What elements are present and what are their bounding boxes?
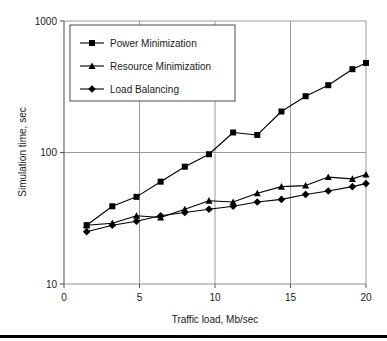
bottom-divider-rule — [0, 335, 387, 338]
data-point-marker — [182, 164, 188, 170]
data-point-marker — [158, 179, 164, 185]
data-point-marker — [278, 109, 284, 115]
y-tick-label: 1000 — [35, 16, 58, 27]
data-point-marker — [363, 60, 369, 66]
chart-figure: 101001000 05101520 Simulation time, sec … — [0, 0, 387, 341]
data-point-marker — [109, 203, 115, 209]
legend-label: Load Balancing — [110, 84, 179, 95]
data-point-marker — [254, 132, 260, 138]
x-tick-label: 10 — [209, 292, 221, 303]
data-point-marker — [133, 194, 139, 200]
x-tick-label: 5 — [137, 292, 143, 303]
data-point-marker — [206, 151, 212, 157]
data-point-marker — [349, 66, 355, 72]
y-tick-label: 10 — [46, 279, 58, 290]
data-point-marker — [230, 129, 236, 135]
data-point-marker — [325, 82, 331, 88]
y-tick-label: 100 — [40, 147, 57, 158]
legend-marker-square — [89, 40, 95, 46]
y-axis-label: Simulation time, sec — [17, 107, 28, 196]
x-tick-label: 20 — [360, 292, 372, 303]
legend-label: Resource Minimization — [110, 61, 211, 72]
legend-label: Power Minimization — [110, 38, 197, 49]
data-point-marker — [303, 93, 309, 99]
line-chart-svg: 101001000 05101520 Simulation time, sec … — [0, 0, 387, 341]
chart-legend: Power MinimizationResource MinimizationL… — [70, 25, 235, 101]
x-tick-label: 0 — [61, 292, 67, 303]
x-axis-label: Traffic load, Mb/sec — [172, 314, 259, 325]
x-tick-label: 15 — [285, 292, 297, 303]
